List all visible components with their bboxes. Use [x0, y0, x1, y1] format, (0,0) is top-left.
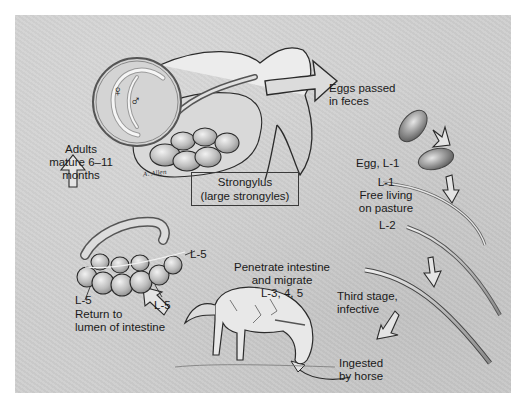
label-adults-mature: Adults mature 6–11 months: [45, 143, 117, 182]
label-eggs-passed: Eggs passed in feces: [329, 82, 396, 108]
species-common-name: (large strongyles): [192, 189, 298, 203]
label-penetrate-migrate: Penetrate intestine and migrate L-3, 4, …: [225, 261, 339, 300]
label-ingested: Ingested by horse: [339, 357, 383, 383]
label-l5-bottom: L-5: [154, 299, 171, 312]
label-third-stage: Third stage, infective: [337, 290, 398, 316]
female-symbol: ♀: [112, 83, 123, 98]
label-l1-free-living: L-1 Free living on pasture: [354, 176, 418, 215]
male-symbol: ♂: [130, 93, 141, 108]
species-title-box: Strongylus (large strongyles): [191, 172, 299, 206]
label-l5-right: L-5: [190, 248, 207, 261]
label-return-lumen: Return to lumen of intestine: [75, 308, 165, 334]
label-l5-left: L-5: [75, 294, 92, 307]
label-egg-l1: Egg, L-1: [356, 157, 399, 170]
life-cycle-illustration: ♀ ♂ A. Allen Strongylus (large strongyle…: [15, 15, 511, 393]
adult-intestine-coil: [77, 222, 195, 300]
label-l2: L-2: [379, 219, 396, 232]
species-name: Strongylus: [192, 175, 298, 189]
